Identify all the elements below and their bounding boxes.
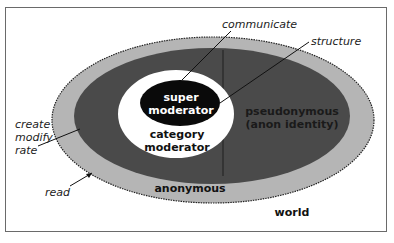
pseudonymous-label-1: pseudonymous	[245, 105, 339, 118]
communicate-label: communicate	[222, 18, 297, 31]
world-label: world	[275, 206, 310, 219]
category-moderator-label-2: moderator	[144, 141, 210, 154]
access-levels-diagram: super moderator category moderator pseud…	[0, 0, 394, 243]
structure-label: structure	[311, 35, 361, 48]
rate-label: rate	[15, 144, 38, 157]
read-label: read	[45, 186, 71, 199]
super-moderator-label-2: moderator	[148, 104, 214, 117]
super-moderator-label-1: super	[163, 91, 199, 104]
anonymous-label: anonymous	[154, 182, 226, 195]
category-moderator-label-1: category	[150, 128, 205, 141]
modify-label: modify	[15, 131, 53, 144]
pseudonymous-label-2: (anon identity)	[246, 118, 339, 131]
create-label: create	[15, 118, 50, 131]
